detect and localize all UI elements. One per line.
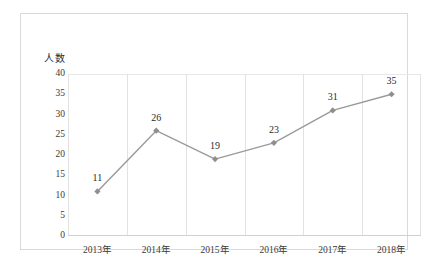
y-axis-tick-label: 0 <box>43 231 65 241</box>
y-axis-tick-label: 25 <box>43 130 65 140</box>
data-point-label: 19 <box>195 141 235 151</box>
data-point-label: 26 <box>136 113 176 123</box>
y-axis-tick-label: 15 <box>43 170 65 180</box>
x-axis-tick-label: 2017年 <box>303 242 363 256</box>
y-axis-tick-labels: 4035302520151050 <box>39 14 65 267</box>
x-axis-tick-label: 2013年 <box>67 242 127 256</box>
data-point-label: 23 <box>254 125 294 135</box>
data-point-labels: 112619233135 <box>68 74 421 236</box>
x-axis-tick-label: 2016年 <box>244 242 304 256</box>
y-axis-tick-label: 5 <box>43 211 65 221</box>
y-axis-tick-label: 35 <box>43 89 65 99</box>
chart-frame: 人数 4035302520151050 112619233135 2013年20… <box>20 13 408 250</box>
x-axis-tick-label: 2015年 <box>185 242 245 256</box>
x-axis-tick-label: 2014年 <box>126 242 186 256</box>
x-axis-tick-label: 2018年 <box>362 242 422 256</box>
y-axis-tick-label: 30 <box>43 110 65 120</box>
data-point-label: 31 <box>313 92 353 102</box>
x-axis-tick-labels: 2013年2014年2015年2016年2017年2018年 <box>68 242 421 258</box>
y-axis-tick-label: 40 <box>43 69 65 79</box>
y-axis-tick-label: 10 <box>43 191 65 201</box>
data-point-label: 35 <box>372 76 412 86</box>
data-point-label: 11 <box>77 173 117 183</box>
y-axis-tick-label: 20 <box>43 150 65 160</box>
